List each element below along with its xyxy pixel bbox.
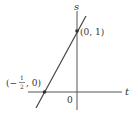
point-label-0-1: (0, 1)	[80, 27, 104, 37]
line-graph-diagram: s t 0 (0, 1) (− 1 2 , 0)	[0, 0, 138, 123]
origin-label: 0	[67, 95, 73, 105]
fraction-numerator: 1	[20, 74, 24, 81]
point-0-1	[75, 29, 79, 33]
point-label-neg-half-prefix: (−	[6, 78, 17, 88]
point-label-neg-half-suffix: , 0)	[26, 78, 41, 88]
point-neg-half-0	[43, 90, 47, 94]
graph-line	[36, 16, 86, 108]
s-axis-label: s	[74, 1, 79, 12]
t-axis-label: t	[125, 86, 130, 97]
fraction-denominator: 2	[20, 83, 24, 90]
